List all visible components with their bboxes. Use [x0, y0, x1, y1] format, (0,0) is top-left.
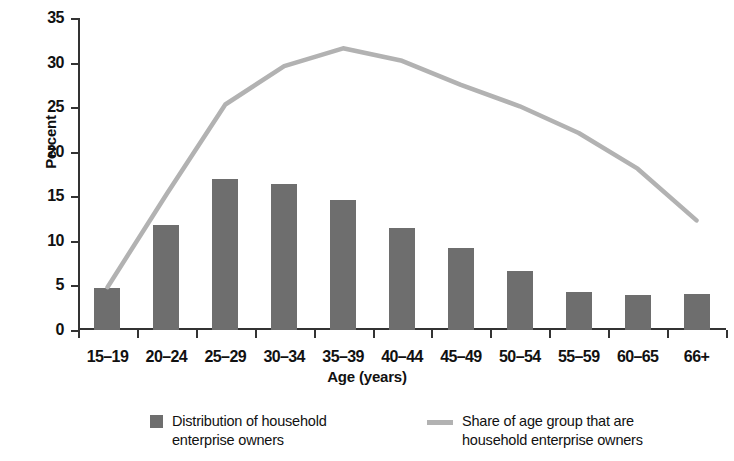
y-tick-label: 0	[30, 321, 64, 339]
y-tick-mark	[71, 18, 78, 20]
x-tick-mark	[726, 330, 728, 338]
chart-legend: Distribution of household enterprise own…	[150, 412, 677, 450]
line-series	[78, 18, 726, 330]
legend-item: Share of age group that are household en…	[427, 412, 677, 450]
y-tick-label: 5	[30, 276, 64, 294]
y-tick-mark	[71, 285, 78, 287]
y-tick-mark	[71, 152, 78, 154]
x-tick-mark	[255, 330, 257, 338]
plot-area: 0510152025303515–1920–2425–2930–3435–394…	[78, 18, 726, 330]
y-tick-label: 15	[30, 187, 64, 205]
y-tick-label: 10	[30, 232, 64, 250]
y-tick-label: 25	[30, 98, 64, 116]
chart-figure: Percent 0510152025303515–1920–2425–2930–…	[0, 0, 734, 461]
y-tick-mark	[71, 196, 78, 198]
legend-line-icon	[427, 420, 453, 425]
legend-label: Distribution of household enterprise own…	[172, 412, 387, 450]
x-tick-label: 66+	[652, 348, 734, 366]
x-tick-mark	[196, 330, 198, 338]
y-tick-mark	[71, 63, 78, 65]
x-tick-mark	[490, 330, 492, 338]
legend-item: Distribution of household enterprise own…	[150, 412, 387, 450]
x-tick-mark	[667, 330, 669, 338]
y-tick-mark	[71, 107, 78, 109]
legend-square-icon	[150, 415, 163, 428]
y-tick-label: 30	[30, 54, 64, 72]
y-tick-mark	[71, 241, 78, 243]
line-path	[108, 48, 697, 287]
x-tick-mark	[549, 330, 551, 338]
y-tick-mark	[71, 330, 78, 332]
x-tick-mark	[137, 330, 139, 338]
x-tick-mark	[373, 330, 375, 338]
x-axis-title: Age (years)	[0, 368, 734, 385]
x-tick-mark	[608, 330, 610, 338]
legend-label: Share of age group that are household en…	[462, 412, 677, 450]
y-tick-label: 20	[30, 143, 64, 161]
y-tick-label: 35	[30, 9, 64, 27]
x-tick-mark	[78, 330, 80, 338]
x-tick-mark	[314, 330, 316, 338]
x-tick-mark	[431, 330, 433, 338]
